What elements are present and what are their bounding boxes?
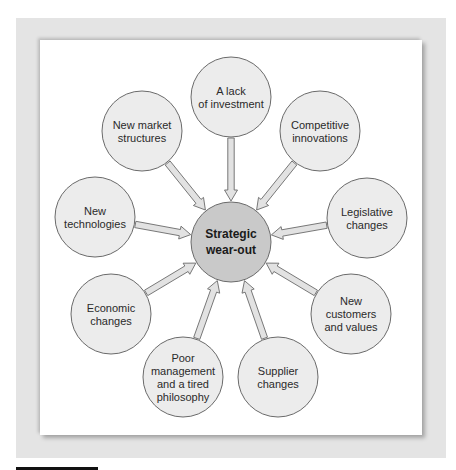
label-line: New bbox=[84, 205, 106, 217]
label-line: New bbox=[340, 295, 362, 307]
label-line: management bbox=[151, 365, 215, 377]
label-line: wear-out bbox=[205, 243, 256, 257]
label-line: Strategic bbox=[205, 227, 257, 241]
node-new-customers-and-values: Newcustomersand values bbox=[311, 274, 391, 354]
node-economic-changes: Economicchanges bbox=[71, 274, 151, 354]
arrow-lack-of-investment bbox=[225, 138, 238, 201]
node-label: Competitiveinnovations bbox=[291, 119, 349, 144]
node-lack-of-investment: A lackof investment bbox=[191, 57, 271, 137]
strategic-wear-out-diagram: A lackof investmentCompetitiveinnovation… bbox=[0, 0, 456, 470]
arrow-new-customers-and-values bbox=[266, 263, 317, 296]
arrow-supplier-changes bbox=[242, 281, 268, 340]
center-circle bbox=[191, 202, 271, 282]
arrow-legislative-changes bbox=[271, 222, 327, 239]
label-line: and a tired bbox=[157, 378, 209, 390]
label-line: Poor bbox=[171, 352, 195, 364]
label-line: and values bbox=[324, 321, 378, 333]
node-label: New marketstructures bbox=[113, 119, 172, 144]
arrow-competitive-innovations bbox=[257, 161, 297, 210]
label-line: structures bbox=[118, 132, 167, 144]
node-label: Economicchanges bbox=[87, 302, 136, 327]
label-line: of investment bbox=[198, 98, 263, 110]
arrow-new-technologies bbox=[135, 221, 191, 239]
label-line: New market bbox=[113, 119, 172, 131]
label-line: technologies bbox=[64, 218, 126, 230]
label-line: changes bbox=[346, 219, 388, 231]
label-line: Economic bbox=[87, 302, 136, 314]
label-line: changes bbox=[257, 378, 299, 390]
label-line: philosophy bbox=[157, 391, 210, 403]
label-line: Legislative bbox=[341, 206, 393, 218]
node-new-technologies: Newtechnologies bbox=[55, 177, 135, 257]
arrow-poor-management bbox=[194, 281, 220, 340]
node-label: Supplierchanges bbox=[257, 365, 299, 390]
label-line: innovations bbox=[292, 132, 348, 144]
node-competitive-innovations: Competitiveinnovations bbox=[280, 91, 360, 171]
node-legislative-changes: Legislativechanges bbox=[327, 178, 407, 258]
arrow-economic-changes bbox=[145, 263, 196, 296]
label-line: A lack bbox=[216, 85, 246, 97]
node-new-market-structures: New marketstructures bbox=[102, 91, 182, 171]
label-line: changes bbox=[90, 315, 132, 327]
label-line: customers bbox=[326, 308, 377, 320]
node-label: Legislativechanges bbox=[341, 206, 393, 231]
label-line: Supplier bbox=[258, 365, 299, 377]
arrow-new-market-structures bbox=[165, 161, 205, 210]
node-supplier-changes: Supplierchanges bbox=[238, 337, 318, 417]
node-poor-management: Poormanagementand a tiredphilosophy bbox=[143, 337, 223, 417]
center-node: Strategicwear-out bbox=[191, 202, 271, 282]
label-line: Competitive bbox=[291, 119, 349, 131]
